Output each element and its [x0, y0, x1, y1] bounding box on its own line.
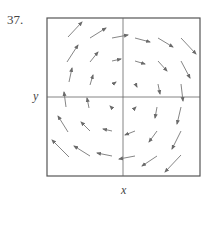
- vector-arrow: [142, 156, 157, 166]
- vector-arrow: [135, 38, 150, 42]
- vector-arrow: [67, 45, 78, 62]
- vector-arrow: [158, 84, 160, 94]
- vector-arrow: [149, 131, 157, 142]
- vector-arrow: [158, 38, 173, 47]
- vector-arrow: [90, 75, 93, 85]
- vector-arrow: [90, 52, 98, 62]
- vector-arrow: [155, 107, 157, 118]
- vector-arrow: [68, 22, 82, 37]
- vector-arrow: [103, 129, 112, 131]
- y-axis-label: y: [33, 89, 38, 104]
- vector-arrow: [112, 59, 121, 61]
- vector-arrow: [181, 61, 190, 78]
- vector-arrow: [90, 28, 106, 38]
- vector-arrow: [119, 156, 135, 159]
- vector-arrow: [125, 131, 135, 135]
- vector-arrow: [58, 116, 68, 132]
- vector-arrow: [81, 122, 90, 131]
- vector-arrow: [136, 85, 137, 87]
- vector-arrow: [165, 155, 181, 172]
- vector-arrow: [69, 68, 72, 82]
- vector-arrow: [181, 84, 183, 101]
- vector-arrow: [113, 82, 116, 84]
- vector-arrow: [110, 106, 112, 108]
- vector-arrow: [172, 131, 181, 149]
- vector-arrow: [97, 153, 112, 156]
- vector-arrow: [181, 38, 196, 54]
- vector-arrow: [52, 140, 69, 157]
- vector-arrow: [134, 107, 136, 109]
- x-axis-label: x: [121, 183, 126, 198]
- vector-arrow: [158, 61, 167, 71]
- vector-arrow: [112, 35, 128, 38]
- vector-arrow: [135, 61, 145, 64]
- vector-arrow: [87, 98, 89, 108]
- vector-arrow: [74, 146, 90, 156]
- vector-arrow: [177, 107, 181, 124]
- vector-arrow: [64, 92, 66, 107]
